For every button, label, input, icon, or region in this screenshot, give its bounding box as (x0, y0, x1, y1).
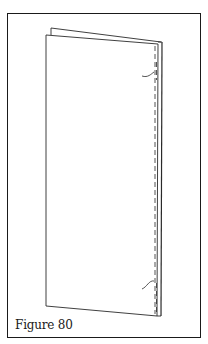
figure-caption: Figure 80 (15, 318, 73, 332)
front-page (46, 35, 158, 316)
folded-booklet-illustration (0, 0, 208, 344)
